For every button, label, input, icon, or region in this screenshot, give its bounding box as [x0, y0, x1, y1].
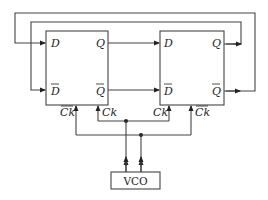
ff2-q-label: Q [212, 37, 221, 50]
ff1-dbar-label: D [50, 85, 60, 98]
ff1-ck-label: Ck [102, 106, 117, 119]
ff1-q-label: Q [96, 37, 105, 50]
ff1-d-label: D [50, 37, 60, 50]
ff1-qbar-label: Q [96, 85, 105, 98]
ff2-ckbar-label: Ck [195, 106, 210, 119]
circuit-diagram: VCO D Q D Q Ck Ck D Q D Q Ck Ck [0, 0, 268, 200]
ff2-dbar-label: D [163, 85, 173, 98]
ff2-ck-label: Ck [153, 106, 168, 119]
ff1-ckbar-label: Ck [60, 106, 75, 119]
vco-label: VCO [122, 175, 148, 187]
ff2-qbar-label: Q [212, 85, 221, 98]
ff2-d-label: D [163, 37, 173, 50]
